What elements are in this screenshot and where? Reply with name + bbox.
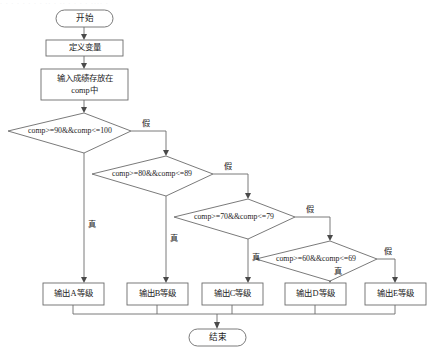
- node-condition-a[interactable]: comp>=90&&comp<=100: [8, 113, 131, 153]
- node-condition-d[interactable]: comp>=60&&comp<=69: [256, 241, 377, 281]
- connector-cond-d-false: [377, 259, 398, 283]
- node-input-score-line2: comp中: [71, 85, 98, 95]
- node-declare-variable[interactable]: 定义变量: [46, 40, 123, 56]
- edge-label-true-c: 真: [252, 252, 260, 262]
- connector-cond-c-false: [295, 217, 333, 241]
- node-output-b-label: 输出B等级: [139, 288, 178, 298]
- node-condition-a-label: comp>=90&&comp<=100: [28, 126, 112, 135]
- connector-cond-a-true: [81, 153, 87, 283]
- node-condition-c-label: comp>=70&&comp<=79: [194, 212, 274, 221]
- connector-declare-to-input: [81, 56, 87, 69]
- node-end[interactable]: 结束: [189, 329, 246, 346]
- node-start[interactable]: 开始: [56, 10, 113, 27]
- connector-cond-a-false: [131, 131, 169, 156]
- node-output-d-label: 输出D等级: [296, 288, 335, 298]
- node-condition-c[interactable]: comp>=70&&comp<=79: [174, 199, 295, 239]
- edge-label-true-d: 真: [334, 266, 342, 276]
- node-output-e[interactable]: 输出E等级: [365, 283, 426, 305]
- connector-cond-b-true: [163, 196, 169, 283]
- edge-label-false-d: 假: [384, 247, 392, 256]
- node-input-score-line1: 输入成绩存放在: [57, 73, 113, 83]
- node-condition-d-label: comp>=60&&comp<=69: [276, 254, 356, 263]
- node-end-label: 结束: [209, 331, 227, 342]
- flowchart-svg: 开始 定义变量 输入成绩存放在 comp中 comp>=90&&comp<=10…: [0, 0, 434, 352]
- node-condition-b-label: comp>=80&&comp<=89: [112, 169, 192, 178]
- edge-label-false-b: 假: [224, 162, 232, 171]
- node-output-c[interactable]: 输出C等级: [202, 283, 263, 305]
- edge-label-true-b: 真: [170, 233, 178, 243]
- node-start-label: 开始: [76, 12, 94, 23]
- edge-label-false-a: 假: [142, 119, 150, 128]
- connector-cond-c-true: [245, 239, 251, 283]
- edge-label-true-a: 真: [88, 219, 96, 229]
- node-declare-variable-label: 定义变量: [69, 42, 101, 52]
- node-output-d[interactable]: 输出D等级: [285, 283, 346, 305]
- node-output-e-label: 输出E等级: [377, 288, 415, 298]
- node-condition-b[interactable]: comp>=80&&comp<=89: [92, 156, 213, 196]
- connector-input-to-cond-a: [81, 100, 87, 113]
- connector-cond-b-false: [213, 174, 251, 199]
- node-output-a-label: 输出A等级: [54, 288, 93, 298]
- connector-merge-bus: [73, 305, 395, 329]
- connector-start-to-declare: [81, 27, 87, 40]
- node-output-b[interactable]: 输出B等级: [127, 283, 188, 305]
- node-output-a[interactable]: 输出A等级: [43, 283, 104, 305]
- flowchart-canvas: · · · · · · · · ·· · ·· · · · · ···· ·: [0, 0, 434, 352]
- node-input-score[interactable]: 输入成绩存放在 comp中: [41, 69, 128, 100]
- node-output-c-label: 输出C等级: [214, 288, 253, 298]
- edge-label-false-c: 假: [306, 205, 314, 214]
